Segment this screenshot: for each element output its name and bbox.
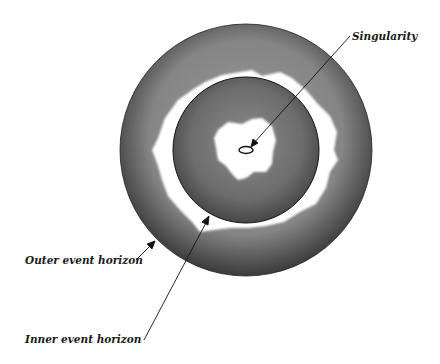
black-hole-diagram: Singularity Outer event horizon Inner ev… xyxy=(0,0,440,364)
singularity-label: Singularity xyxy=(352,30,417,42)
outer-event-horizon-label: Outer event horizon xyxy=(25,254,143,266)
inner-event-horizon-label: Inner event horizon xyxy=(25,333,141,345)
